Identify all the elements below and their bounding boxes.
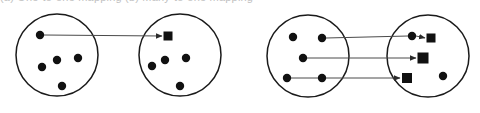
element-dot — [74, 54, 82, 62]
element-dot — [148, 62, 156, 70]
source-set-right — [267, 15, 349, 97]
multi-mapping-diagram — [267, 15, 469, 97]
element-square — [164, 32, 173, 41]
element-square — [427, 34, 436, 43]
element-square — [402, 73, 412, 83]
element-dot — [53, 56, 61, 64]
element-dot — [36, 31, 44, 39]
set-circle-outline — [267, 15, 349, 97]
element-dot — [408, 32, 416, 40]
single-mapping-diagram — [16, 14, 221, 96]
element-dot — [283, 74, 291, 82]
element-dot — [161, 56, 169, 64]
element-dot — [299, 54, 307, 62]
element-dot — [318, 74, 326, 82]
element-dot — [318, 34, 326, 42]
target-set-left — [139, 14, 221, 96]
element-dot — [38, 63, 46, 71]
target-set-right — [387, 15, 469, 97]
element-dot — [176, 82, 184, 90]
mapping-diagram-canvas — [0, 0, 480, 113]
element-dot — [439, 72, 447, 80]
source-set-left — [16, 14, 98, 96]
set-circle-outline — [16, 14, 98, 96]
element-square — [418, 53, 429, 64]
element-dot — [182, 54, 190, 62]
element-dot — [58, 82, 66, 90]
figure-container: (a) One-to-one mapping (b) Many-to-one m… — [0, 0, 480, 113]
element-dot — [289, 33, 297, 41]
